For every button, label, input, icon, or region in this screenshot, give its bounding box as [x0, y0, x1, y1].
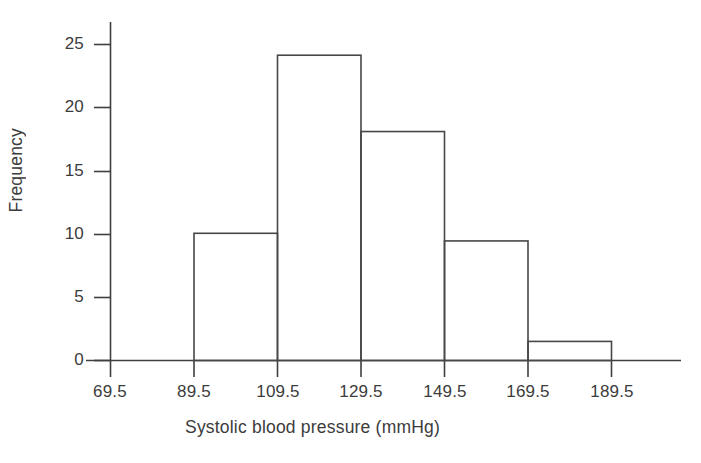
x-tick-label-149-5: 149.5: [423, 382, 467, 402]
y-tick-label-5: 5: [40, 287, 84, 307]
x-axis-ticks: [111, 360, 612, 377]
x-tick-label-69-5: 69.5: [93, 382, 127, 402]
y-tick-label-0: 0: [40, 350, 84, 370]
y-tick-label-10: 10: [40, 224, 84, 244]
x-axis-title: Systolic blood pressure (mmHg): [185, 417, 440, 438]
histogram-bar: [445, 241, 529, 361]
histogram-bar: [361, 132, 445, 361]
y-axis-title: Frequency: [6, 128, 34, 212]
y-tick-label-25: 25: [40, 34, 84, 54]
histogram-bar: [528, 341, 612, 360]
y-tick-label-20: 20: [40, 97, 84, 117]
x-axis-title-wrapper: Systolic blood pressure (mmHg): [0, 417, 701, 438]
histogram-bar: [278, 55, 362, 360]
x-tick-label-109-5: 109.5: [256, 382, 300, 402]
x-tick-label-129-5: 129.5: [339, 382, 383, 402]
histogram-bar: [194, 233, 278, 360]
y-tick-label-15: 15: [40, 161, 84, 181]
histogram-figure: 0 5 10 15 20 25 69.5 89.5 109.5 129.5 14…: [0, 0, 701, 463]
x-tick-label-189-5: 189.5: [590, 382, 634, 402]
y-axis-ticks: [94, 45, 111, 361]
x-tick-label-169-5: 169.5: [506, 382, 550, 402]
histogram-bars: [194, 55, 612, 360]
x-tick-label-89-5: 89.5: [177, 382, 211, 402]
